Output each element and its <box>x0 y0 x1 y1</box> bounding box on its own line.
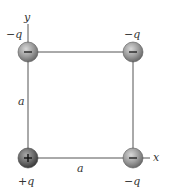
charge-label-bottom-left: +q <box>18 176 34 187</box>
charge-label-bottom-right: −q <box>124 176 140 187</box>
charge-label-top-right: −q <box>124 29 140 40</box>
charge-label-top-left: −q <box>6 29 22 40</box>
charge-top-left <box>18 42 38 62</box>
x-axis-label: x <box>153 152 159 163</box>
charge-top-right <box>123 42 143 62</box>
y-axis-label: y <box>24 12 30 23</box>
side-length-label-bottom: a <box>77 163 84 174</box>
square-charge-diagram <box>0 0 171 191</box>
charge-bottom-left <box>18 148 38 168</box>
charge-bottom-right <box>123 148 143 168</box>
side-length-label-left: a <box>18 96 25 107</box>
